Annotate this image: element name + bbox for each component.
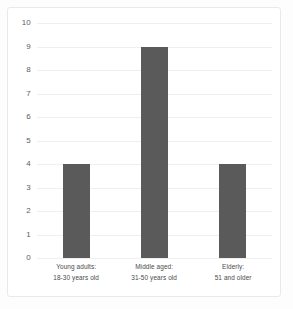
plot-area: [37, 23, 272, 258]
y-axis-tick-labels: 109876543210: [5, 23, 31, 258]
x-axis-label-line: 51 and older: [197, 273, 269, 284]
bar: [141, 47, 168, 259]
x-axis-category-label: Elderly:51 and older: [197, 262, 269, 283]
y-axis-tick-label: 9: [5, 43, 31, 51]
gridline: [37, 23, 272, 24]
x-axis-label-line: Elderly:: [197, 262, 269, 273]
y-axis-tick-label: 1: [5, 231, 31, 239]
x-axis-label-line: 31-50 years old: [118, 273, 190, 284]
x-axis-category-labels: Young adults:18-30 years oldMiddle aged:…: [37, 262, 272, 292]
y-axis-tick-label: 6: [5, 113, 31, 121]
x-axis-label-line: Middle aged:: [118, 262, 190, 273]
x-axis-label-line: 18-30 years old: [40, 273, 112, 284]
bar: [219, 164, 246, 258]
bar-chart-figure: 109876543210 Young adults:18-30 years ol…: [0, 0, 293, 309]
y-axis-tick-label: 3: [5, 184, 31, 192]
x-axis-category-label: Middle aged:31-50 years old: [118, 262, 190, 283]
bar: [63, 164, 90, 258]
y-axis-tick-label: 2: [5, 207, 31, 215]
y-axis-tick-label: 7: [5, 90, 31, 98]
y-axis-tick-label: 4: [5, 160, 31, 168]
y-axis-tick-label: 0: [5, 254, 31, 262]
gridline: [37, 258, 272, 259]
x-axis-category-label: Young adults:18-30 years old: [40, 262, 112, 283]
y-axis-tick-label: 5: [5, 137, 31, 145]
y-axis-tick-label: 8: [5, 66, 31, 74]
x-axis-label-line: Young adults:: [40, 262, 112, 273]
y-axis-tick-label: 10: [5, 19, 31, 27]
